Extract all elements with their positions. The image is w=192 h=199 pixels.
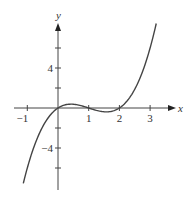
- x-axis: x −1123: [14, 102, 183, 124]
- y-tick-label: −4: [41, 142, 53, 154]
- x-tick-label: −1: [16, 112, 28, 124]
- x-axis-arrow-icon: [168, 105, 176, 111]
- y-axis: y −44: [41, 9, 61, 190]
- cubic-function-plot: x −1123 y −44: [0, 0, 192, 199]
- x-axis-label: x: [177, 102, 183, 114]
- y-tick-label: 4: [48, 62, 54, 74]
- function-curve: [23, 24, 156, 184]
- x-tick-label: 2: [117, 112, 123, 124]
- x-tick-label: 1: [86, 112, 92, 124]
- y-axis-label: y: [55, 9, 61, 21]
- x-tick-label: 3: [147, 112, 153, 124]
- y-axis-arrow-icon: [55, 23, 61, 31]
